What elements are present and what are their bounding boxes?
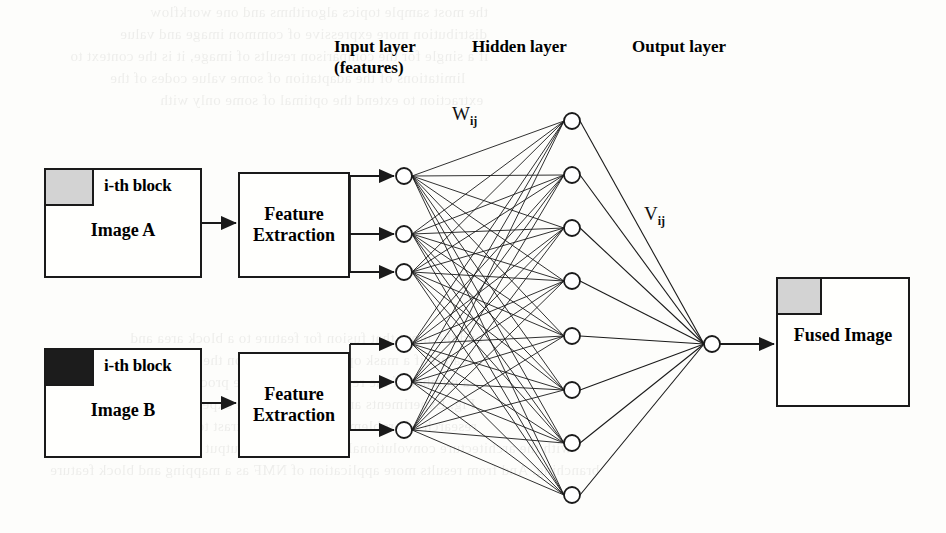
weight-edges-wij [412,121,564,495]
hidden-layer-node [564,487,580,503]
input-layer-node [396,422,412,438]
weight-vij-subscript: ij [658,214,665,228]
image-a-name: Image A [46,220,200,241]
edge-hidden-to-output [580,336,704,344]
weight-vij-symbol: V [644,203,658,224]
edge-input-to-hidden [412,121,564,234]
fused-image-block-swatch [778,279,822,315]
image-a-box: i-th block Image A [44,168,202,278]
output-layer-node [704,336,720,352]
edge-hidden-to-output [580,281,704,344]
image-b-ith-block-swatch [46,350,94,386]
edge-input-to-hidden [412,430,564,443]
image-a-block-label: i-th block [104,176,171,196]
weight-edges-vij [580,121,704,495]
image-a-ith-block-swatch [46,170,94,206]
figure-canvas: the most sample topics algorithms and on… [0,0,946,533]
hidden-layer-node [564,113,580,129]
input-layer-node [396,264,412,280]
feature-extraction-b-label: Feature Extraction [240,384,348,425]
image-b-box: i-th block Image B [44,348,202,458]
weight-label-vij: Vij [644,203,665,229]
fused-image-box: Fused Image [776,277,910,407]
edge-hidden-to-output [580,175,704,344]
edge-hidden-to-output [580,344,704,443]
input-layer-node [396,374,412,390]
edge-input-to-hidden [412,175,564,382]
edge-hidden-to-output [580,121,704,344]
edge-input-to-hidden [412,390,564,430]
edge-input-to-hidden [412,176,564,443]
edge-input-to-hidden [412,430,564,495]
hidden-layer-node [564,382,580,398]
fused-image-name: Fused Image [778,325,908,346]
input-layer-node [396,226,412,242]
hidden-layer-node [564,435,580,451]
caption-hidden-layer: Hidden layer [472,36,567,57]
weight-label-wij: Wij [452,103,477,129]
edge-hidden-to-output [580,228,704,344]
caption-output-layer: Output layer [632,36,726,57]
input-layer-node [396,336,412,352]
hidden-layer-node [564,220,580,236]
edge-input-to-hidden [412,175,564,176]
edge-input-to-hidden [412,121,564,344]
feature-extraction-a-label: Feature Extraction [240,204,348,245]
edge-input-to-hidden [412,175,564,430]
feature-extraction-b-box: Feature Extraction [238,352,350,458]
image-b-block-label: i-th block [104,356,171,376]
hidden-layer-node [564,328,580,344]
feature-extraction-a-box: Feature Extraction [238,172,350,278]
image-b-name: Image B [46,400,200,421]
caption-input-layer: Input layer (features) [334,36,416,79]
weight-wij-subscript: ij [470,114,477,128]
input-layer-node [396,168,412,184]
weight-wij-symbol: W [452,103,470,124]
edge-input-to-hidden [412,382,564,495]
edge-input-to-hidden [412,228,564,430]
edge-input-to-hidden [412,121,564,272]
hidden-layer-node [564,273,580,289]
hidden-layer-node [564,167,580,183]
